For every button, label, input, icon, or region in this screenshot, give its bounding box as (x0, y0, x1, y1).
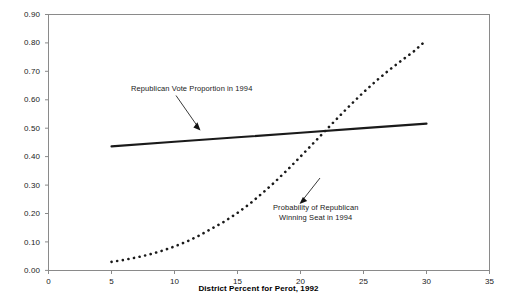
y-tick-label: 0.30 (10, 181, 40, 190)
chart-figure: 0.90 0.80 0.70 0.60 0.50 0.40 0.30 0.20 … (0, 0, 517, 304)
annotation-republican-vote-proportion: Republican Vote Proportion in 1994 (131, 84, 252, 94)
plot-canvas (0, 0, 517, 304)
y-tick-label: 0.40 (10, 152, 40, 161)
x-axis-title: District Percent for Perot, 1992 (0, 284, 517, 293)
y-tick-label: 0.80 (10, 38, 40, 47)
plot-area-frame (49, 15, 490, 271)
y-tick-label: 0.70 (10, 67, 40, 76)
y-tick-label: 0.50 (10, 124, 40, 133)
y-tick-label: 0.60 (10, 95, 40, 104)
y-axis-ticks (45, 15, 49, 271)
annotation-probability-line-1: Probability of Republican (273, 203, 358, 213)
y-tick-label: 0.10 (10, 238, 40, 247)
annotation-probability-winning-seat: Probability of Republican Winning Seat i… (273, 203, 358, 223)
y-tick-label: 0.20 (10, 209, 40, 218)
y-tick-label: 0.00 (10, 266, 40, 275)
y-tick-label: 0.90 (10, 10, 40, 19)
x-axis-ticks (49, 271, 490, 275)
annotation-probability-line-2: Winning Seat in 1994 (273, 213, 358, 223)
